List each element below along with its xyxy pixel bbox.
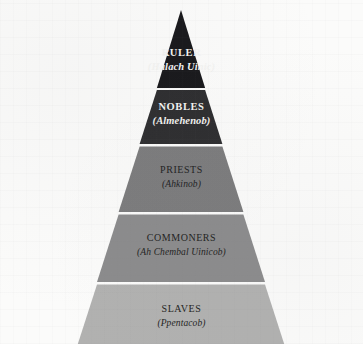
pyramid-tier-priests-label: PRIESTS (Ahkinob) [0, 164, 363, 190]
pyramid-labels-layer: RULER (Halach Uinic) NOBLES (Almehenob) … [0, 0, 363, 344]
pyramid-tier-nobles-title: NOBLES [0, 101, 363, 113]
pyramid-tier-commoners-subtitle: (Ah Chembal Uinicob) [0, 247, 363, 258]
pyramid-tier-slaves-subtitle: (Ppentacob) [0, 318, 363, 329]
pyramid-tier-priests-subtitle: (Ahkinob) [0, 179, 363, 190]
pyramid-tier-commoners-title: COMMONERS [0, 232, 363, 244]
pyramid-tier-commoners-label: COMMONERS (Ah Chembal Uinicob) [0, 232, 363, 258]
pyramid-tier-nobles-subtitle: (Almehenob) [0, 115, 363, 127]
pyramid-tier-ruler-subtitle: (Halach Uinic) [0, 61, 363, 73]
pyramid-tier-ruler-title: RULER [0, 47, 363, 59]
pyramid-tier-slaves-label: SLAVES (Ppentacob) [0, 303, 363, 329]
pyramid-tier-priests-title: PRIESTS [0, 164, 363, 176]
pyramid-tier-ruler-label: RULER (Halach Uinic) [0, 47, 363, 74]
pyramid-tier-nobles-label: NOBLES (Almehenob) [0, 101, 363, 128]
maya-social-hierarchy-pyramid: RULER (Halach Uinic) NOBLES (Almehenob) … [0, 0, 363, 344]
pyramid-tier-slaves-title: SLAVES [0, 303, 363, 315]
